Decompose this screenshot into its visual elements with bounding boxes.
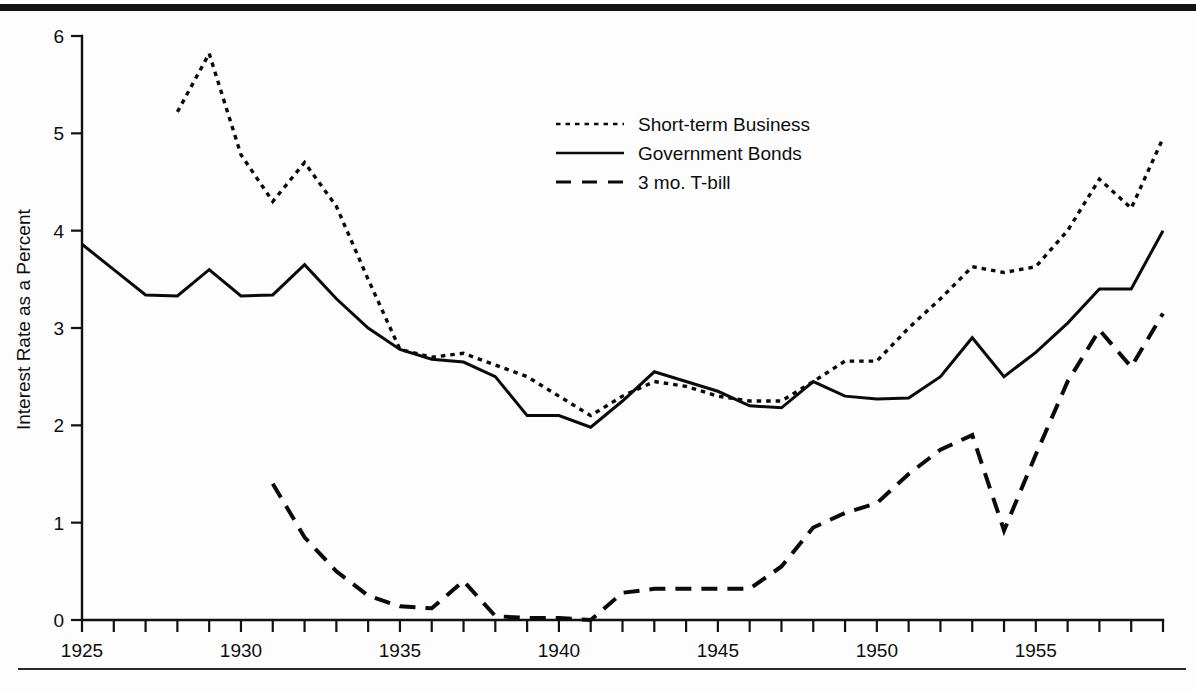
series-line-3-mo-t-bill (273, 313, 1163, 620)
y-axis-tick-labels: 0123456 (53, 26, 64, 631)
line-chart-plot: 0123456 1925193019351940194519501955 Int… (0, 0, 1196, 690)
legend-label: Short-term Business (638, 114, 810, 135)
y-tick-label: 0 (53, 610, 64, 631)
chart-legend: Short-term BusinessGovernment Bonds3 mo.… (556, 114, 810, 193)
x-tick-label: 1940 (538, 640, 580, 661)
x-axis-ticks (82, 620, 1163, 632)
y-tick-label: 5 (53, 123, 64, 144)
x-tick-label: 1930 (220, 640, 262, 661)
legend-item: Short-term Business (556, 114, 810, 135)
legend-label: Government Bonds (638, 143, 802, 164)
x-tick-label: 1945 (697, 640, 739, 661)
y-axis-title: Interest Rate as a Percent (13, 209, 34, 430)
x-tick-label: 1925 (61, 640, 103, 661)
legend-item: 3 mo. T-bill (556, 172, 731, 193)
y-tick-label: 3 (53, 318, 64, 339)
x-tick-label: 1950 (856, 640, 898, 661)
y-tick-label: 6 (53, 26, 64, 47)
x-tick-label: 1955 (1015, 640, 1057, 661)
legend-item: Government Bonds (556, 143, 802, 164)
y-tick-label: 2 (53, 415, 64, 436)
series-line-short-term-business (177, 54, 1163, 416)
data-series-group (82, 54, 1163, 620)
x-axis-tick-labels: 1925193019351940194519501955 (61, 640, 1057, 661)
y-axis-ticks (71, 36, 82, 620)
figure-container: 0123456 1925193019351940194519501955 Int… (0, 0, 1196, 690)
x-tick-label: 1935 (379, 640, 421, 661)
legend-label: 3 mo. T-bill (638, 172, 731, 193)
y-tick-label: 1 (53, 513, 64, 534)
y-tick-label: 4 (53, 221, 64, 242)
